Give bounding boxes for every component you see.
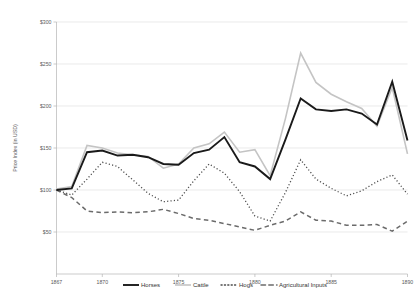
legend-label-agricultural-inputs[interactable]: Agricultural Inputs — [279, 282, 327, 288]
series-line-cattle — [57, 53, 408, 189]
gridlines — [57, 22, 408, 232]
chart-legend[interactable]: HorsesCattleHogsAgricultural Inputs — [123, 282, 327, 288]
series-line-agricultural-inputs — [57, 190, 408, 231]
y-tick-label: $200 — [40, 103, 52, 109]
legend-label-hogs[interactable]: Hogs — [239, 282, 253, 288]
x-axis: 186718701875188018851890 — [51, 274, 414, 285]
legend-label-horses[interactable]: Horses — [141, 282, 160, 288]
legend-label-cattle[interactable]: Cattle — [193, 282, 209, 288]
line-chart: $50$100$150$200$250$300 1867187018751880… — [0, 0, 419, 300]
y-tick-label: $150 — [40, 145, 52, 151]
x-tick-label: 1867 — [51, 279, 63, 285]
y-axis-title: Price Index (in USD) — [12, 124, 18, 172]
x-tick-label: 1885 — [325, 279, 337, 285]
chart-canvas: $50$100$150$200$250$300 1867187018751880… — [0, 0, 419, 300]
y-tick-label: $100 — [40, 187, 52, 193]
y-tick-label: $300 — [40, 19, 52, 25]
y-axis-label: Price Index (in USD) — [12, 124, 18, 172]
y-axis: $50$100$150$200$250$300 — [40, 19, 57, 274]
y-tick-label: $250 — [40, 61, 52, 67]
series-line-horses — [57, 82, 408, 190]
x-tick-label: 1890 — [402, 279, 414, 285]
series-line-hogs — [57, 160, 408, 221]
data-series — [57, 53, 408, 231]
x-tick-label: 1875 — [173, 279, 185, 285]
y-tick-label: $50 — [43, 229, 52, 235]
x-tick-label: 1870 — [97, 279, 109, 285]
